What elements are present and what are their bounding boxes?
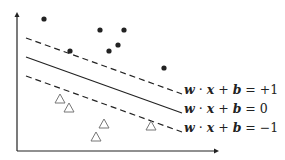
negative-point-triangle-icon (91, 132, 101, 141)
positive-point-dot (67, 48, 72, 53)
w-symbol: w (184, 120, 195, 135)
positive-point-dot (121, 27, 126, 32)
label-decision-boundary: w · x + b = 0 (184, 103, 268, 116)
label-margin-negative: w · x + b = −1 (184, 122, 278, 135)
dot-operator: · (199, 101, 203, 116)
positive-class-points (41, 16, 166, 70)
plus-operator: + (218, 101, 228, 116)
dot-operator: · (199, 82, 203, 97)
negative-point-triangle-icon (55, 94, 65, 103)
svm-diagram (0, 0, 285, 160)
positive-point-dot (106, 48, 111, 53)
rhs-value: +1 (260, 82, 278, 97)
b-symbol: b (233, 82, 242, 97)
hyperplanes (26, 38, 182, 132)
negative-point-triangle-icon (64, 103, 74, 112)
dot-operator: · (199, 120, 203, 135)
positive-point-dot (41, 16, 46, 21)
positive-point-dot (115, 42, 120, 47)
positive-point-dot (97, 27, 102, 32)
plus-operator: + (218, 120, 228, 135)
w-symbol: w (184, 82, 195, 97)
x-axis-arrow-icon (214, 149, 219, 154)
y-axis-arrow-icon (15, 12, 20, 17)
b-symbol: b (233, 120, 242, 135)
label-margin-positive: w · x + b = +1 (184, 84, 278, 97)
negative-point-triangle-icon (99, 119, 109, 128)
x-symbol: x (207, 120, 214, 135)
x-symbol: x (207, 101, 214, 116)
positive-point-dot (161, 65, 166, 70)
equals-sign: = (245, 101, 255, 116)
b-symbol: b (233, 101, 242, 116)
plus-operator: + (218, 82, 228, 97)
rhs-value: 0 (260, 101, 268, 116)
negative-point-triangle-icon (146, 121, 156, 130)
rhs-value: −1 (260, 120, 278, 135)
x-symbol: x (207, 82, 214, 97)
equals-sign: = (245, 120, 255, 135)
w-symbol: w (184, 101, 195, 116)
equals-sign: = (245, 82, 255, 97)
